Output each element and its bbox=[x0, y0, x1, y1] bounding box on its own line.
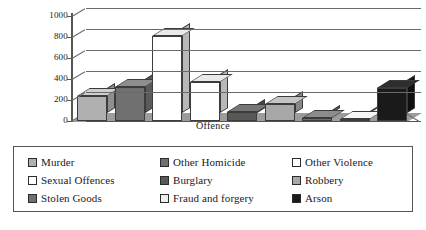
legend-swatch-icon bbox=[160, 158, 169, 167]
legend-swatch-icon bbox=[28, 176, 37, 185]
bar-sexual-offences bbox=[190, 82, 220, 121]
legend-item-murder[interactable]: Murder bbox=[28, 156, 160, 168]
bar-top-face bbox=[302, 110, 345, 118]
legend-item-robbery[interactable]: Robbery bbox=[292, 174, 400, 186]
legend-label: Stolen Goods bbox=[41, 192, 102, 204]
legend-item-sexual-offences[interactable]: Sexual Offences bbox=[28, 174, 160, 186]
gridline-200 bbox=[86, 92, 421, 93]
legend-item-other-violence[interactable]: Other Violence bbox=[292, 156, 400, 168]
legend-grid: MurderOther HomicideOther ViolenceSexual… bbox=[28, 153, 400, 207]
gridline-600 bbox=[86, 50, 421, 51]
legend-item-stolen-goods[interactable]: Stolen Goods bbox=[28, 192, 160, 204]
legend-swatch-icon bbox=[160, 176, 169, 185]
bar-front-face bbox=[190, 82, 220, 121]
x-axis-label: Offence bbox=[0, 120, 426, 131]
gridline-400 bbox=[86, 71, 421, 72]
legend-label: Robbery bbox=[305, 174, 344, 186]
legend-item-other-homicide[interactable]: Other Homicide bbox=[160, 156, 292, 168]
legend-label: Fraud and forgery bbox=[173, 192, 254, 204]
plot-area: 02004006008001000 bbox=[0, 0, 426, 132]
bar-arson bbox=[377, 88, 407, 121]
legend-swatch-icon bbox=[160, 194, 169, 203]
legend-label: Burglary bbox=[173, 174, 213, 186]
gridline-1000 bbox=[86, 8, 421, 9]
legend-item-arson[interactable]: Arson bbox=[292, 192, 400, 204]
bar-front-face bbox=[377, 88, 407, 121]
legend-label: Sexual Offences bbox=[41, 174, 115, 186]
bar-front-face bbox=[265, 104, 295, 121]
bar-series bbox=[0, 0, 426, 132]
bar-front-face bbox=[77, 96, 107, 121]
bar-chart-figure: 02004006008001000 Offence MurderOther Ho… bbox=[0, 0, 426, 230]
bar-murder bbox=[77, 96, 107, 121]
legend-label: Murder bbox=[41, 156, 75, 168]
bar-robbery bbox=[265, 104, 295, 121]
bar-other-violence bbox=[152, 36, 182, 121]
legend-label: Arson bbox=[305, 192, 332, 204]
legend-swatch-icon bbox=[292, 176, 301, 185]
legend-swatch-icon bbox=[292, 194, 301, 203]
legend-swatch-icon bbox=[28, 158, 37, 167]
legend-box: MurderOther HomicideOther ViolenceSexual… bbox=[13, 146, 413, 212]
legend-label: Other Homicide bbox=[173, 156, 246, 168]
bar-top-face bbox=[340, 111, 383, 119]
gridline-800 bbox=[86, 29, 421, 30]
legend-swatch-icon bbox=[28, 194, 37, 203]
bar-top-face bbox=[227, 104, 270, 112]
bar-front-face bbox=[152, 36, 182, 121]
legend-item-burglary[interactable]: Burglary bbox=[160, 174, 292, 186]
legend-swatch-icon bbox=[292, 158, 301, 167]
legend-label: Other Violence bbox=[305, 156, 373, 168]
legend-item-fraud-and-forgery[interactable]: Fraud and forgery bbox=[160, 192, 292, 204]
